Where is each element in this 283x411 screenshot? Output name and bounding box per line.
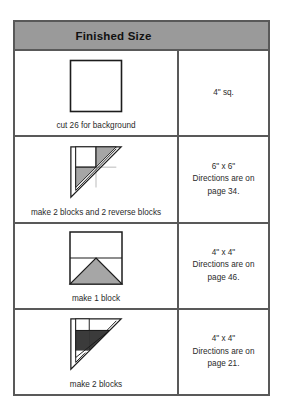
table-row: make 2 blocks and 2 reverse blocks 6" x … (15, 137, 268, 223)
block-size-cell: 4" x 4" Directions are on page 21. (179, 310, 268, 394)
peak-triangle-icon (68, 230, 124, 286)
block-caption: make 1 block (72, 293, 120, 304)
block-caption: cut 26 for background (56, 120, 135, 131)
block-diagram-cell: make 1 block (15, 224, 179, 308)
finished-size-text: 6" x 6" Directions are on page 34. (193, 161, 255, 199)
table-row: make 1 block 4" x 4" Directions are on p… (15, 224, 268, 310)
dark-corner-triangle-block-diagram (15, 310, 177, 379)
page-title: Finished Size (75, 30, 151, 42)
peak-triangle-block-diagram (15, 224, 177, 293)
block-size-cell: 4" x 4" Directions are on page 46. (179, 224, 268, 308)
finished-size-text: 4" x 4" Directions are on page 21. (193, 333, 255, 371)
table-header: Finished Size (15, 22, 268, 51)
table-body: cut 26 for background 4" sq. (15, 51, 268, 394)
corner-triangle-block-diagram (15, 137, 177, 206)
dark-corner-triangle-icon (67, 315, 125, 373)
plain-square-icon (69, 59, 123, 113)
block-diagram-cell: make 2 blocks and 2 reverse blocks (15, 137, 179, 221)
table-row: cut 26 for background 4" sq. (15, 51, 268, 137)
plain-square-block-diagram (15, 51, 177, 120)
finished-size-text: 4" x 4" Directions are on page 46. (193, 247, 255, 285)
finished-size-table: Finished Size cut 26 for background 4" s… (13, 20, 270, 396)
block-diagram-cell: cut 26 for background (15, 51, 179, 135)
block-caption: make 2 blocks and 2 reverse blocks (31, 207, 161, 218)
block-caption: make 2 blocks (70, 379, 122, 390)
table-row: make 2 blocks 4" x 4" Directions are on … (15, 310, 268, 394)
finished-size-text: 4" sq. (213, 87, 234, 100)
block-diagram-cell: make 2 blocks (15, 310, 179, 394)
block-size-cell: 6" x 6" Directions are on page 34. (179, 137, 268, 221)
corner-triangle-icon (67, 143, 125, 201)
block-size-cell: 4" sq. (179, 51, 268, 135)
